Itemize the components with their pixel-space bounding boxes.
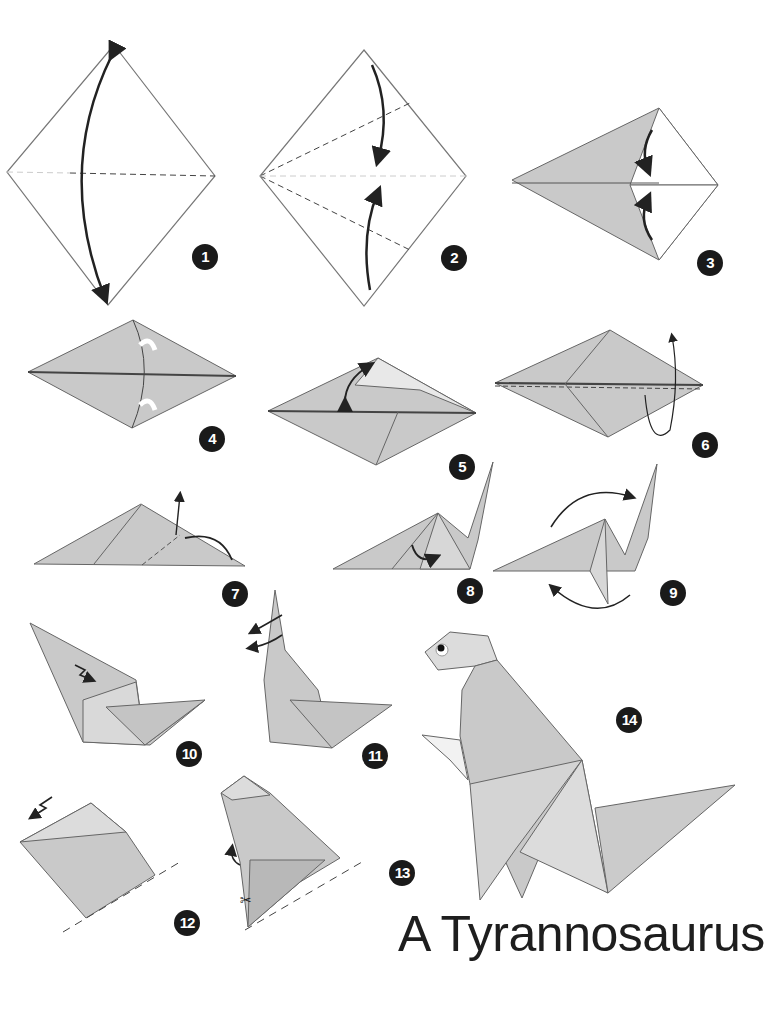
step-badge-6: 6 (692, 432, 718, 458)
step-badge-2: 2 (441, 245, 467, 271)
step-badge-9: 9 (660, 580, 686, 606)
step-4-diagram (28, 320, 236, 428)
step-7-diagram (34, 495, 245, 566)
step-9-diagram (493, 464, 657, 608)
step-11-diagram (250, 590, 392, 748)
step-1-diagram (7, 45, 215, 305)
step-badge-13: 13 (389, 860, 415, 886)
step-badge-8: 8 (457, 578, 483, 604)
step-5-diagram (268, 358, 476, 465)
origami-instructions: ✂ 1 2 3 4 5 6 7 8 9 10 11 12 13 14 A Tyr… (0, 0, 771, 1015)
step-badge-11: 11 (362, 743, 388, 769)
step-badge-1: 1 (192, 244, 218, 270)
diagram-drawing: ✂ (0, 0, 771, 1015)
step-14-finished-model (422, 632, 735, 900)
step-badge-3: 3 (697, 250, 723, 276)
diagram-title: A Tyrannosaurus (398, 905, 765, 963)
step-13-diagram: ✂ (221, 776, 362, 930)
step-badge-5: 5 (449, 454, 475, 480)
step-2-diagram (260, 50, 466, 306)
step-badge-4: 4 (199, 426, 225, 452)
step-badge-10: 10 (176, 741, 202, 767)
svg-text:✂: ✂ (240, 892, 252, 908)
step-badge-12: 12 (174, 910, 200, 936)
step-8-diagram (333, 462, 493, 569)
step-badge-7: 7 (222, 581, 248, 607)
step-10-diagram (30, 623, 205, 745)
step-3-diagram (512, 108, 718, 260)
step-badge-14: 14 (616, 707, 642, 733)
step-6-diagram (495, 330, 703, 437)
step-12-diagram (20, 797, 180, 932)
